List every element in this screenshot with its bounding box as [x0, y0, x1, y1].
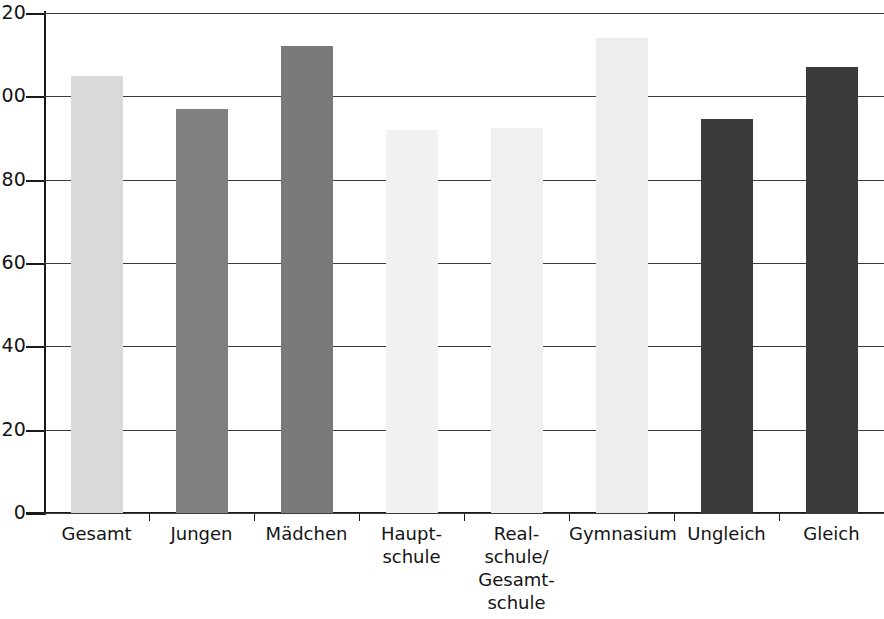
- bar: [491, 128, 543, 513]
- bar: [71, 76, 123, 514]
- x-axis-tick: [569, 514, 570, 521]
- y-axis-tick: [26, 513, 44, 515]
- y-axis-tick: [26, 180, 44, 182]
- x-axis-category-label: Gymnasium: [569, 522, 674, 545]
- y-axis-tick-label: 20: [1, 420, 26, 439]
- x-axis-category-label: Haupt- schule: [359, 522, 464, 568]
- x-axis-category-label: Mädchen: [254, 522, 359, 545]
- x-axis-category-labels: GesamtJungenMädchenHaupt- schuleReal- sc…: [44, 522, 884, 619]
- x-axis-category-label: Ungleich: [674, 522, 779, 545]
- y-axis-tick-labels: 020406080100120: [0, 13, 26, 513]
- x-axis-tick: [149, 514, 150, 521]
- y-axis-tick: [26, 346, 44, 348]
- y-axis-tick-label: 0: [14, 503, 26, 522]
- x-axis-tick: [674, 514, 675, 521]
- bar: [386, 130, 438, 513]
- bar: [701, 119, 753, 513]
- y-axis-tick-label: 80: [1, 170, 26, 189]
- gridline: [44, 180, 884, 181]
- y-axis-tick: [26, 96, 44, 98]
- gridline: [44, 263, 884, 264]
- bar: [281, 46, 333, 513]
- bar: [596, 38, 648, 513]
- gridline: [44, 13, 884, 14]
- gridline: [44, 430, 884, 431]
- y-axis-tick-label: 60: [1, 253, 26, 272]
- gridline: [44, 346, 884, 347]
- y-axis-tick-label: 100: [0, 86, 26, 105]
- y-axis-tick: [26, 263, 44, 265]
- x-axis-tick: [254, 514, 255, 521]
- x-axis-category-label: Jungen: [149, 522, 254, 545]
- gridline: [44, 96, 884, 97]
- plot-area: [44, 13, 884, 513]
- y-axis-tick: [26, 430, 44, 432]
- y-axis-tick-label: 120: [0, 3, 26, 22]
- bar: [806, 67, 858, 513]
- x-axis-category-label: Gesamt: [44, 522, 149, 545]
- bar: [176, 109, 228, 513]
- x-axis-tick: [464, 514, 465, 521]
- y-axis-tick: [26, 13, 44, 15]
- x-axis-category-label: Real- schule/ Gesamt- schule: [464, 522, 569, 614]
- x-axis-tick: [779, 514, 780, 521]
- x-axis-category-label: Gleich: [779, 522, 884, 545]
- x-axis-tick: [359, 514, 360, 521]
- bar-chart: 020406080100120 GesamtJungenMädchenHaupt…: [0, 0, 884, 619]
- y-axis-tick-label: 40: [1, 336, 26, 355]
